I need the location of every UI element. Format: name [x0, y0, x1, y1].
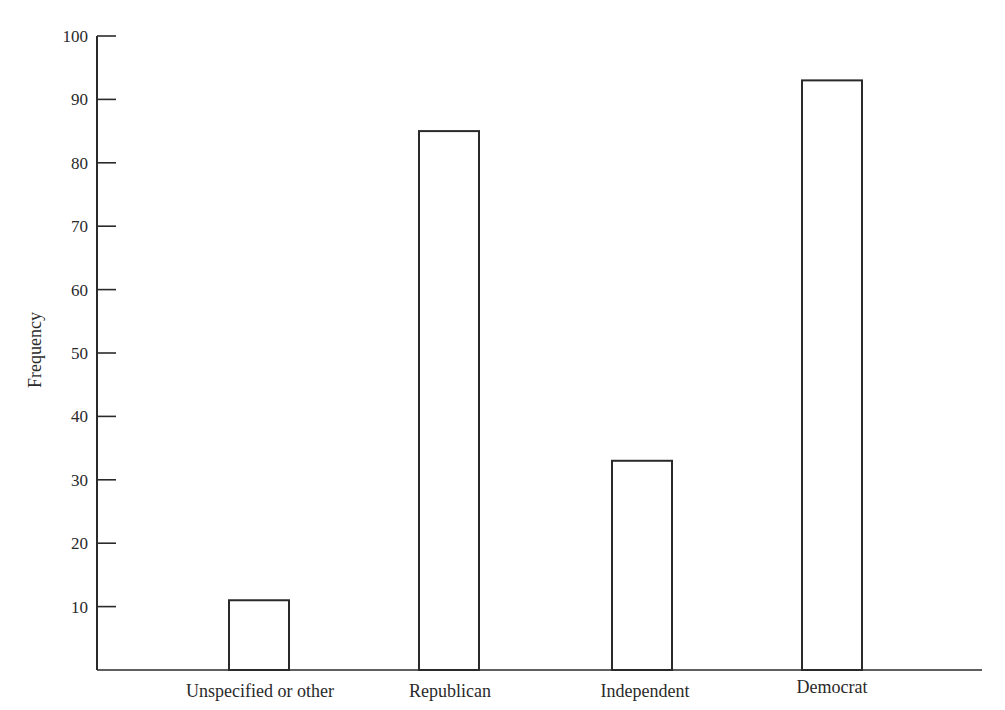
category-labels: Unspecified or otherRepublicanIndependen…: [186, 677, 867, 701]
bar-unspecified-or-other: [229, 600, 289, 670]
y-tick-label: 30: [71, 471, 88, 490]
y-tick-label: 70: [71, 217, 88, 236]
bars: [229, 80, 862, 670]
y-tick-label: 40: [71, 407, 88, 426]
bar-democrat: [802, 80, 862, 670]
category-label: Independent: [601, 681, 690, 701]
y-tick-label: 60: [71, 281, 88, 300]
y-tick-label: 10: [71, 598, 88, 617]
y-axis-label: Frequency: [25, 312, 45, 388]
bar-independent: [612, 461, 672, 670]
category-label: Unspecified or other: [186, 681, 334, 701]
y-tick-label: 100: [63, 27, 89, 46]
bar-republican: [419, 131, 479, 670]
axes: 102030405060708090100: [63, 27, 983, 670]
bar-chart: 102030405060708090100 Unspecified or oth…: [0, 0, 1005, 710]
category-label: Republican: [409, 681, 491, 701]
y-tick-label: 80: [71, 154, 88, 173]
y-tick-label: 90: [71, 90, 88, 109]
y-tick-label: 20: [71, 534, 88, 553]
y-tick-label: 50: [71, 344, 88, 363]
category-label: Democrat: [797, 677, 868, 697]
